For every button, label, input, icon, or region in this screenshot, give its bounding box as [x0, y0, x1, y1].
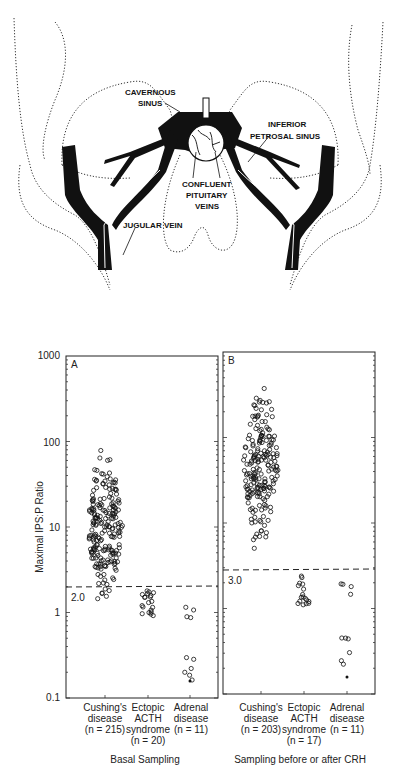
ytick-100: 100	[43, 437, 60, 448]
svg-text:disease: disease	[244, 713, 279, 724]
svg-text:Cushing's: Cushing's	[239, 702, 283, 713]
ytick-10: 10	[49, 522, 61, 533]
outlier-b	[346, 676, 349, 679]
threshold-line-b	[223, 569, 375, 570]
ytick-0-1: 0.1	[46, 692, 60, 703]
svg-text:(n = 11): (n = 11)	[174, 724, 208, 735]
label-inferior-1: INFERIOR	[268, 120, 306, 129]
pituitary-stalk	[203, 98, 209, 118]
label-cavernous-1: CAVERNOUS	[125, 88, 176, 97]
label-confluent-1: CONFLUENT	[182, 180, 231, 189]
y-axis-label: Maximal IPS:P Ratio	[34, 481, 45, 573]
label-cavernous-2: SINUS	[138, 99, 163, 108]
svg-text:Sampling before or after CRH: Sampling before or after CRH	[234, 754, 366, 765]
svg-text:syndrome: syndrome	[126, 724, 170, 735]
svg-text:Cushing's: Cushing's	[83, 702, 127, 713]
label-confluent-3: VEINS	[195, 202, 220, 211]
svg-text:(n = 215): (n = 215)	[85, 724, 125, 735]
threshold-label-b: 3.0	[228, 575, 242, 586]
panel-a-frame	[66, 356, 218, 698]
panel-b-categories: Cushing'sdisease(n = 203) EctopicACTHsyn…	[234, 702, 366, 765]
svg-text:(n = 203): (n = 203)	[241, 724, 281, 735]
outlier-a	[189, 680, 192, 683]
panel-b-frame	[223, 352, 375, 694]
panel-b-letter: B	[228, 355, 235, 366]
svg-text:disease: disease	[174, 713, 209, 724]
panel-a-categories: Cushing'sdisease(n = 215) EctopicACTHsyn…	[83, 702, 208, 765]
svg-text:Ectopic: Ectopic	[132, 702, 165, 713]
svg-text:disease: disease	[330, 713, 365, 724]
svg-text:Adrenal: Adrenal	[174, 702, 208, 713]
data-points	[87, 386, 353, 682]
svg-text:ACTH: ACTH	[134, 713, 161, 724]
svg-text:syndrome: syndrome	[282, 724, 326, 735]
svg-text:(n = 17): (n = 17)	[287, 735, 322, 746]
svg-text:ACTH: ACTH	[290, 713, 317, 724]
ytick-1: 1	[54, 607, 60, 618]
figure: CAVERNOUS SINUS INFERIOR PETROSAL SINUS …	[0, 0, 397, 773]
label-confluent-2: PITUITARY	[186, 191, 228, 200]
svg-text:Basal Sampling: Basal Sampling	[110, 754, 179, 765]
threshold-line-a	[66, 586, 218, 587]
svg-text:disease: disease	[88, 713, 123, 724]
label-inferior-2: PETROSAL SINUS	[250, 132, 321, 141]
label-jugular: JUGULAR VEIN	[123, 221, 183, 230]
svg-text:(n = 11): (n = 11)	[330, 724, 364, 735]
ytick-1000: 1000	[38, 350, 61, 361]
panel-a-letter: A	[71, 359, 78, 370]
threshold-label-a: 2.0	[71, 592, 85, 603]
svg-text:(n = 20): (n = 20)	[131, 735, 166, 746]
svg-text:Ectopic: Ectopic	[288, 702, 321, 713]
svg-text:Adrenal: Adrenal	[330, 702, 364, 713]
